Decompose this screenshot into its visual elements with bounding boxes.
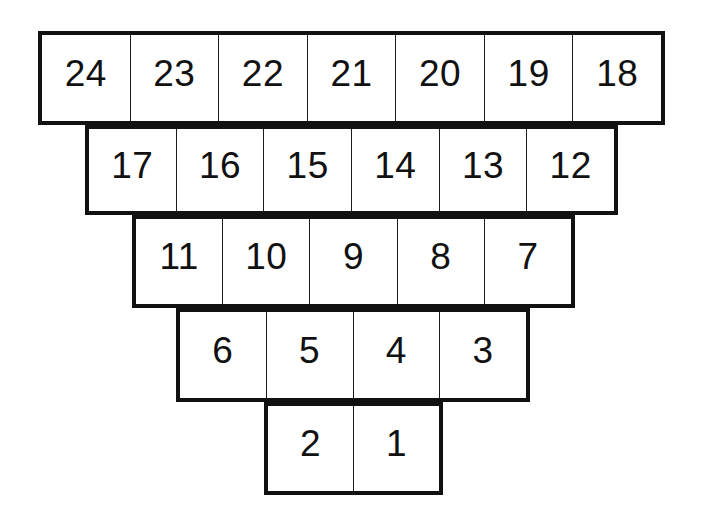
grid-row-3: 11 10 9 8 7	[132, 215, 575, 308]
grid-cell[interactable]: 8	[397, 219, 484, 304]
grid-cell[interactable]: 23	[130, 35, 219, 121]
cell-label: 15	[287, 147, 329, 184]
cell-label: 22	[242, 55, 284, 92]
grid-cell[interactable]: 17	[89, 129, 176, 211]
cell-label: 21	[330, 55, 372, 92]
grid-cell[interactable]: 15	[263, 129, 351, 211]
cell-label: 2	[300, 425, 321, 462]
grid-cell[interactable]: 6	[180, 312, 266, 398]
grid-cell[interactable]: 24	[42, 35, 130, 121]
grid-row-1: 24 23 22 21 20 19 18	[38, 31, 665, 125]
cell-label: 14	[374, 147, 416, 184]
grid-cell[interactable]: 14	[351, 129, 439, 211]
cell-label: 19	[508, 55, 550, 92]
cell-label: 3	[473, 332, 494, 369]
cell-label: 1	[386, 425, 407, 462]
cell-label: 23	[153, 55, 195, 92]
cell-label: 17	[111, 147, 153, 184]
grid-cell[interactable]: 11	[136, 219, 222, 304]
cell-label: 4	[386, 332, 407, 369]
grid-row-4: 6 5 4 3	[176, 308, 530, 402]
grid-cell[interactable]: 1	[353, 406, 439, 491]
grid-cell[interactable]: 19	[484, 35, 573, 121]
cell-label: 20	[419, 55, 461, 92]
cell-label: 11	[159, 238, 198, 275]
grid-cell[interactable]: 22	[218, 35, 307, 121]
cell-label: 7	[517, 238, 538, 275]
grid-cell[interactable]: 4	[353, 312, 440, 398]
grid-cell[interactable]: 7	[484, 219, 571, 304]
grid-cell[interactable]: 3	[439, 312, 526, 398]
grid-cell[interactable]: 12	[526, 129, 614, 211]
grid-cell[interactable]: 21	[307, 35, 396, 121]
cell-label: 5	[299, 332, 320, 369]
cell-label: 10	[245, 238, 287, 275]
grid-cell[interactable]: 9	[309, 219, 396, 304]
grid-row-2: 17 16 15 14 13 12	[85, 125, 618, 215]
cell-label: 8	[430, 238, 451, 275]
cell-label: 24	[65, 55, 107, 92]
grid-cell[interactable]: 13	[439, 129, 527, 211]
grid-cell[interactable]: 10	[222, 219, 309, 304]
grid-cell[interactable]: 16	[176, 129, 264, 211]
cell-label: 9	[343, 238, 364, 275]
pyramid-grid-figure: 24 23 22 21 20 19 18 17 16 15 14	[0, 0, 701, 523]
cell-label: 12	[550, 147, 592, 184]
cell-label: 18	[596, 55, 638, 92]
cell-label: 16	[199, 147, 241, 184]
grid-cell[interactable]: 18	[572, 35, 661, 121]
cell-label: 6	[212, 332, 233, 369]
grid-cell[interactable]: 2	[268, 406, 353, 491]
grid-cell[interactable]: 5	[266, 312, 353, 398]
cell-label: 13	[462, 147, 504, 184]
grid-cell[interactable]: 20	[395, 35, 484, 121]
grid-row-5: 2 1	[264, 402, 443, 495]
